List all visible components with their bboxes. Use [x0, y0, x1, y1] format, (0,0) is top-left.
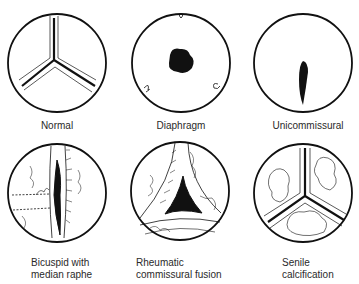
label-bicuspid: Bicuspid with median raphe — [31, 257, 92, 281]
label-diaphragm: Diaphragm — [157, 120, 206, 132]
label-senile: Senile calcification — [282, 257, 334, 281]
label-rheumatic: Rheumatic commissural fusion — [136, 257, 222, 281]
normal-valve-figure — [8, 14, 106, 112]
label-bicuspid-line2: median raphe — [31, 269, 92, 281]
senile-valve-figure — [254, 144, 352, 242]
label-bicuspid-line1: Bicuspid with — [31, 257, 92, 269]
bicuspid-valve-figure — [8, 144, 106, 242]
label-rheumatic-line2: commissural fusion — [136, 269, 222, 281]
label-unicommissural: Unicommissural — [272, 120, 343, 132]
diaphragm-valve-figure — [132, 14, 230, 112]
rheumatic-valve-figure — [131, 142, 229, 240]
label-senile-line1: Senile — [282, 257, 334, 269]
label-rheumatic-line1: Rheumatic — [136, 257, 222, 269]
label-senile-line2: calcification — [282, 269, 334, 281]
valve-diagram-canvas — [0, 0, 359, 284]
label-normal: Normal — [41, 120, 73, 132]
unicommissural-valve-figure — [254, 14, 352, 112]
